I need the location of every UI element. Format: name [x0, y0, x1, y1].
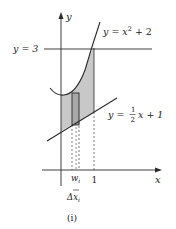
- x-axis-arrow-icon: [155, 168, 162, 173]
- line-label-suffix: x + 1: [138, 109, 163, 120]
- curve-label: y = x2 + 2: [102, 25, 152, 37]
- y-axis-label: y: [65, 11, 72, 22]
- curve-label-suffix: + 2: [132, 26, 152, 37]
- y-axis-arrow-icon: [59, 12, 64, 19]
- line-label-frac-num: 1: [131, 106, 135, 114]
- curve-label-prefix: y = x: [102, 26, 128, 37]
- line-label-frac-den: 2: [131, 116, 135, 124]
- representative-rectangle: [72, 93, 79, 125]
- horizontal-line-label: y = 3: [12, 43, 38, 54]
- delta-x-i-label: Δxi: [66, 192, 80, 203]
- x-axis-label: x: [155, 174, 161, 185]
- delta-x-label: Δx: [66, 192, 78, 202]
- w-i-label: wi: [71, 173, 80, 184]
- delta-x-subscript: i: [78, 196, 80, 203]
- integral-region-diagram: y x y = 3 y = x2 + 2 y = 1 2 x + 1 wi 1 …: [0, 0, 176, 229]
- line-label-prefix: y =: [107, 109, 124, 120]
- figure-caption: (i): [67, 213, 77, 223]
- x-one-label: 1: [92, 175, 98, 185]
- w-subscript: i: [78, 177, 80, 184]
